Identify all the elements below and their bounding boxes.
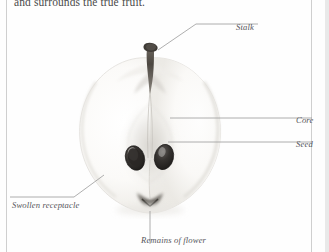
page-rule-right	[311, 0, 312, 252]
figure-page: and surrounds the true fruit.	[0, 0, 329, 252]
apple-cross-section-image	[72, 42, 228, 220]
page-rule-left	[6, 0, 7, 252]
label-core: Core	[296, 115, 313, 125]
label-swollen-receptacle: Swollen receptacle	[12, 200, 80, 210]
label-seed: Seed	[296, 139, 313, 149]
page-edge-band	[325, 0, 329, 252]
body-text: and surrounds the true fruit.	[14, 0, 145, 8]
label-remains-of-flower: Remains of flower	[141, 235, 206, 245]
label-stalk: Stalk	[236, 22, 254, 32]
